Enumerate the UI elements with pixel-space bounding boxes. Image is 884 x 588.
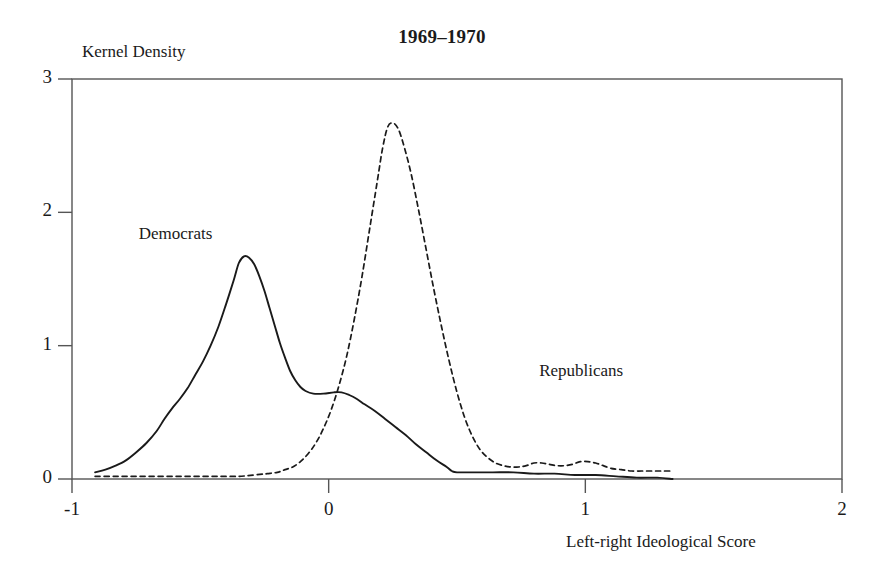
x-axis-title: Left-right Ideological Score <box>566 532 756 552</box>
density-curve-republicans <box>95 123 673 477</box>
y-tick-label: 0 <box>12 466 52 488</box>
series-curves <box>95 123 673 479</box>
series-label-republicans: Republicans <box>539 361 623 381</box>
plot-box-border <box>72 79 842 479</box>
x-tick-label: -1 <box>42 498 102 520</box>
plot-area <box>0 0 884 588</box>
kernel-density-figure: 1969–1970 Kernel Density -10120123 Democ… <box>0 0 884 588</box>
x-tick-label: 2 <box>812 498 872 520</box>
axis-ticks <box>58 79 842 493</box>
plot-frame <box>72 79 842 479</box>
y-tick-label: 3 <box>12 66 52 88</box>
series-label-democrats: Democrats <box>139 224 213 244</box>
x-tick-label: 1 <box>555 498 615 520</box>
x-tick-label: 0 <box>299 498 359 520</box>
y-tick-label: 2 <box>12 199 52 221</box>
y-tick-label: 1 <box>12 333 52 355</box>
